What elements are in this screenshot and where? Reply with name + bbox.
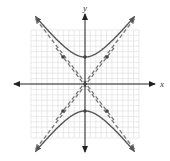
x-axis-label: x [159, 79, 164, 89]
vertex-lower [83, 109, 87, 113]
asymptote-positive-lower [35, 48, 114, 150]
y-axis-label: y [82, 3, 87, 13]
asymptote-point [105, 55, 109, 59]
vertex-upper [83, 55, 87, 59]
asymptote-point [61, 109, 65, 113]
asymptote-point [61, 55, 65, 59]
asymptote-point [105, 109, 109, 113]
asymptote-negative [35, 18, 114, 120]
center-point [83, 82, 87, 86]
hyperbola-diagram: y x [0, 0, 170, 161]
